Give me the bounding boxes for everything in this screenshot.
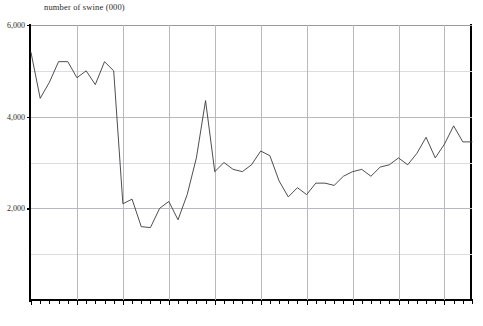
x-tick-mark-1971 <box>454 300 455 304</box>
x-tick-mark-1930 <box>77 300 78 305</box>
x-tick-mark-1929 <box>68 300 69 304</box>
x-tick-mark-1936 <box>132 300 133 304</box>
x-tick-mark-1966 <box>408 300 409 304</box>
x-tick-mark-1967 <box>417 300 418 304</box>
x-tick-mark-1935 <box>123 300 124 305</box>
x-tick-mark-1952 <box>279 300 280 304</box>
x-tick-mark-1970 <box>444 300 445 305</box>
x-tick-mark-1958 <box>334 300 335 304</box>
y-tick-label-4000: 4,000 <box>7 112 25 121</box>
x-tick-mark-1955 <box>307 300 308 305</box>
x-tick-mark-1946 <box>224 300 225 304</box>
x-tick-mark-1925 <box>31 300 32 305</box>
x-tick-mark-1938 <box>150 300 151 304</box>
x-tick-mark-1926 <box>40 300 41 304</box>
plot-area: 6,0004,0002,000 192519301940195019601970 <box>31 25 472 300</box>
x-tick-mark-1940 <box>169 300 170 305</box>
x-tick-mark-1972 <box>463 300 464 304</box>
chart-figure: number of swine (000) 6,0004,0002,000 19… <box>0 0 483 326</box>
x-tick-mark-1949 <box>252 300 253 304</box>
x-tick-mark-1951 <box>270 300 271 304</box>
x-tick-mark-1932 <box>95 300 96 304</box>
x-tick-mark-1968 <box>426 300 427 304</box>
x-tick-mark-1944 <box>206 300 207 304</box>
x-tick-mark-1948 <box>242 300 243 304</box>
x-tick-mark-1961 <box>362 300 363 304</box>
x-tick-mark-1950 <box>261 300 262 305</box>
series-swine-count <box>31 25 472 300</box>
x-tick-mark-1934 <box>114 300 115 304</box>
y-tick-label-2000: 2,000 <box>7 204 25 213</box>
x-tick-mark-1933 <box>105 300 106 304</box>
y-tick-label-6000: 6,000 <box>7 21 25 30</box>
series-line <box>31 53 472 228</box>
x-tick-mark-1939 <box>160 300 161 304</box>
x-tick-mark-1953 <box>288 300 289 304</box>
x-tick-mark-1942 <box>187 300 188 304</box>
x-tick-mark-1960 <box>353 300 354 305</box>
x-tick-mark-1959 <box>343 300 344 304</box>
x-tick-mark-1957 <box>325 300 326 304</box>
x-tick-mark-1943 <box>196 300 197 304</box>
x-tick-mark-1956 <box>316 300 317 304</box>
x-tick-mark-1954 <box>297 300 298 304</box>
x-tick-mark-1931 <box>86 300 87 304</box>
x-tick-mark-1928 <box>59 300 60 304</box>
x-tick-mark-1945 <box>215 300 216 305</box>
x-tick-mark-1962 <box>371 300 372 304</box>
x-tick-mark-1973 <box>472 300 473 304</box>
x-tick-mark-1969 <box>435 300 436 304</box>
x-tick-mark-1941 <box>178 300 179 304</box>
x-tick-mark-1964 <box>389 300 390 304</box>
x-tick-mark-1937 <box>141 300 142 304</box>
chart-title: number of swine (000) <box>44 2 125 12</box>
x-tick-mark-1963 <box>380 300 381 304</box>
x-tick-mark-1965 <box>399 300 400 305</box>
x-tick-mark-1947 <box>233 300 234 304</box>
x-tick-mark-1927 <box>49 300 50 304</box>
